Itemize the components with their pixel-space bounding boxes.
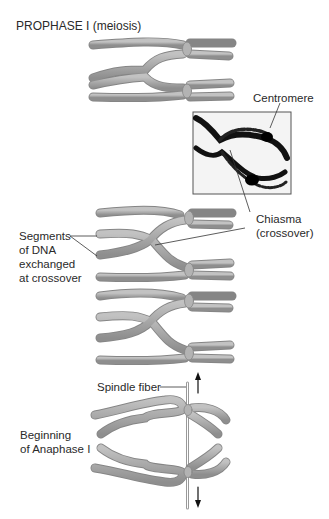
chiasma-label-line1: Chiasma	[256, 212, 314, 226]
anaphase-label: Beginning of Anaphase I	[20, 428, 90, 456]
centromere-icon	[183, 42, 192, 56]
arrow-up-icon	[195, 372, 201, 393]
arrow-down-icon	[195, 487, 201, 508]
prophase-tetrad	[93, 42, 232, 98]
crossover-stage-2	[100, 293, 232, 360]
anaphase-label-line1: Beginning	[20, 428, 90, 442]
centromere-icon	[185, 263, 194, 277]
centromere-icon	[185, 211, 194, 225]
crossover-stage-1	[100, 210, 232, 277]
centromere-icon	[185, 294, 194, 308]
segments-label-line2: of DNA	[19, 243, 82, 257]
spindle-fiber-label: Spindle fiber	[97, 380, 161, 394]
diagram-title: PROPHASE I (meiosis)	[16, 19, 141, 33]
segments-label-line4: at crossover	[19, 271, 82, 285]
segments-label: Segments of DNA exchanged at crossover	[19, 229, 82, 285]
chiasma-label: Chiasma (crossover)	[256, 212, 314, 240]
centromere-icon	[184, 405, 192, 416]
segments-label-line3: exchanged	[19, 257, 82, 271]
segments-label-line1: Segments	[19, 229, 82, 243]
centromere-icon	[185, 346, 194, 360]
centromere-icon	[183, 84, 192, 98]
centromere-icon	[184, 467, 192, 478]
micrograph-photo	[193, 112, 291, 194]
centromere-label: Centromere	[253, 91, 314, 105]
chiasma-label-line2: (crossover)	[256, 226, 314, 240]
anaphase-label-line2: of Anaphase I	[20, 442, 90, 456]
